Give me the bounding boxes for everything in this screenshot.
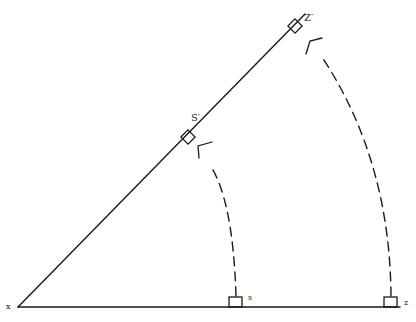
arrowhead-z-icon bbox=[306, 38, 322, 54]
point-z-box bbox=[384, 297, 397, 307]
rotation-arc-z bbox=[322, 57, 391, 296]
point-s-prime-box bbox=[181, 130, 195, 144]
point-z-prime-box bbox=[288, 19, 302, 33]
rotation-diagram: x s z S′ Z′ bbox=[0, 0, 416, 322]
point-s-label: s bbox=[248, 293, 252, 302]
diagram-canvas: x s z S′ Z′ bbox=[0, 0, 416, 322]
rotation-arc-s bbox=[210, 165, 236, 296]
rotated-line bbox=[18, 14, 305, 307]
point-z-prime-label: Z′ bbox=[304, 12, 314, 23]
arrowhead-s-icon bbox=[198, 142, 212, 158]
vertex-label: x bbox=[6, 302, 11, 311]
point-s-box bbox=[229, 297, 242, 307]
point-s-prime-label: S′ bbox=[191, 112, 201, 123]
point-z-label: z bbox=[404, 298, 408, 307]
